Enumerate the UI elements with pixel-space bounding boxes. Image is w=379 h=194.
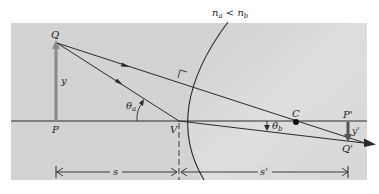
s-label: s bbox=[113, 166, 118, 177]
sprime-label: s' bbox=[260, 166, 268, 177]
refracted-ray-arrowhead-icon bbox=[364, 139, 376, 148]
point-q-label: Q bbox=[51, 29, 59, 40]
image-arrow bbox=[347, 122, 350, 135]
height-y-label: y bbox=[60, 75, 67, 86]
refraction-diagram: na < nb Q y P V C P' y' Q' θa θb s s' bbox=[0, 0, 379, 194]
index-relation-label: na < nb bbox=[212, 7, 249, 20]
object-arrow bbox=[55, 46, 58, 121]
point-c-label: C bbox=[292, 108, 300, 119]
height-yprime-label: y' bbox=[351, 126, 360, 136]
point-pprime-label: P' bbox=[342, 109, 352, 120]
center-point bbox=[293, 119, 299, 125]
medium-b-region bbox=[188, 10, 379, 190]
point-p-label: P bbox=[51, 124, 59, 135]
point-qprime-label: Q' bbox=[342, 143, 353, 154]
